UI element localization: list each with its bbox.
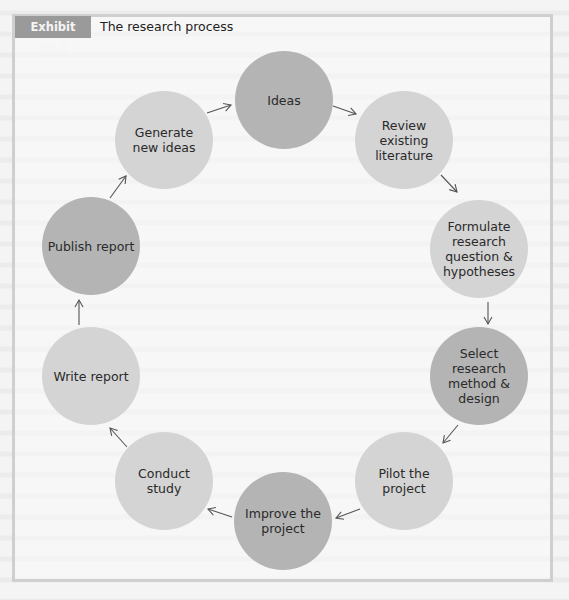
arrow-icon [336, 509, 360, 518]
arrow-icon [207, 105, 231, 113]
node-label: Select [460, 346, 499, 361]
node-label: Conduct [138, 466, 190, 481]
arrow-icon [110, 176, 126, 198]
node-write-report: Write report [42, 327, 140, 425]
node-label: research [452, 234, 506, 249]
node-select-method: Selectresearchmethod &design [430, 327, 528, 425]
arrow-icon [441, 175, 457, 192]
node-label: Write report [53, 369, 128, 384]
arrow-icon [443, 425, 458, 443]
node-label: hypotheses [443, 264, 515, 279]
node-publish-report: Publish report [42, 197, 140, 295]
node-ideas: Ideas [235, 51, 333, 149]
node-improve-project: Improve theproject [234, 472, 332, 570]
node-label: Pilot the [378, 466, 430, 481]
arrow-icon [208, 509, 232, 517]
node-label: question & [445, 249, 513, 264]
node-label: Review [382, 118, 427, 133]
nodes-layer: IdeasReviewexistingliteratureFormulatere… [42, 51, 528, 570]
node-label: design [458, 391, 499, 406]
node-label: new ideas [132, 140, 195, 155]
node-formulate-question: Formulateresearchquestion &hypotheses [430, 200, 528, 298]
arrow-icon [110, 428, 127, 447]
node-label: research [452, 361, 506, 376]
node-label: method & [448, 376, 510, 391]
node-label: Generate [135, 125, 194, 140]
node-label: study [147, 481, 182, 496]
node-label: existing [379, 133, 428, 148]
node-pilot-project: Pilot theproject [355, 432, 453, 530]
node-label: Improve the [245, 506, 321, 521]
node-conduct-study: Conductstudy [115, 432, 213, 530]
node-review-literature: Reviewexistingliterature [355, 91, 453, 189]
node-label: project [261, 521, 304, 536]
node-label: Ideas [267, 93, 300, 108]
node-label: Formulate [447, 219, 510, 234]
node-label: project [382, 481, 425, 496]
arrow-icon [333, 106, 356, 114]
research-process-cycle-diagram: IdeasReviewexistingliteratureFormulatere… [0, 0, 569, 600]
node-generate-ideas: Generatenew ideas [115, 91, 213, 189]
node-label: literature [375, 148, 433, 163]
node-label: Publish report [48, 239, 135, 254]
